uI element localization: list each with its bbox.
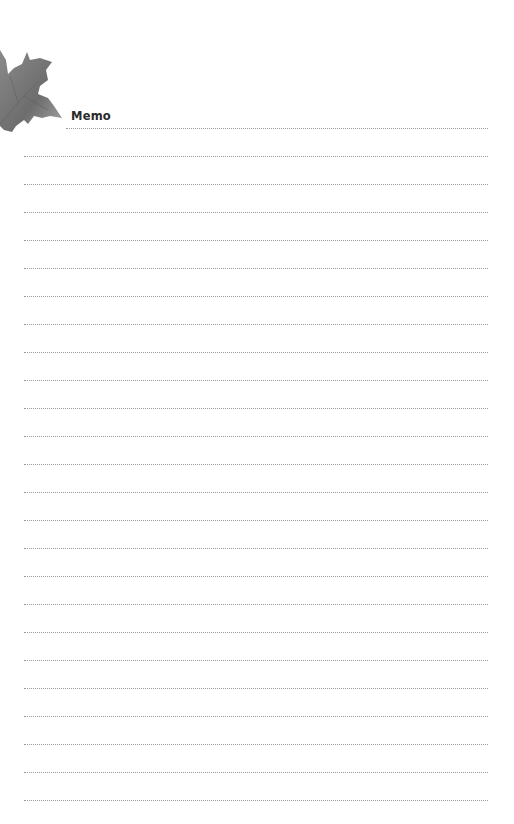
ruled-line [24,408,488,409]
ruled-line [24,604,488,605]
ruled-line [24,660,488,661]
page-title: Memo [71,109,111,123]
ruled-line [24,156,488,157]
ruled-line [24,268,488,269]
ruled-line [24,184,488,185]
ruled-line [24,772,488,773]
ruled-line [24,240,488,241]
ruled-line [66,128,488,129]
ruled-line [24,212,488,213]
ruled-line [24,548,488,549]
ruled-line [24,744,488,745]
ruled-line [24,576,488,577]
ruled-line [24,324,488,325]
ruled-line [24,352,488,353]
ruled-line [24,492,488,493]
ruled-line [24,464,488,465]
ruled-line [24,800,488,801]
ruled-line [24,436,488,437]
ruled-line [24,716,488,717]
maple-leaf-icon [0,46,66,132]
ruled-line [24,380,488,381]
ruled-line [24,520,488,521]
ruled-line [24,688,488,689]
ruled-line [24,296,488,297]
ruled-line [24,632,488,633]
